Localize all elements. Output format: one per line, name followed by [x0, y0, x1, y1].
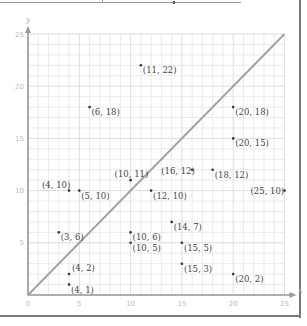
point-marker	[181, 262, 184, 265]
point-marker	[232, 106, 235, 109]
point-label: (16, 12)	[161, 166, 195, 176]
x-tick-label: 15	[177, 300, 186, 308]
y-tick-label: 20	[15, 83, 24, 91]
data-point: (4, 10)	[42, 180, 70, 192]
x-tick-label: 10	[126, 300, 135, 308]
data-point: (20, 2)	[232, 273, 264, 284]
data-point: (10, 5)	[129, 242, 161, 253]
point-marker	[232, 273, 235, 276]
x-tick-label: 0	[26, 300, 30, 308]
point-label: (20, 2)	[235, 274, 263, 284]
point-label: (4, 10)	[42, 180, 70, 190]
point-label: (14, 7)	[174, 222, 202, 232]
data-point: (20, 18)	[232, 106, 269, 117]
point-label: (18, 12)	[215, 170, 249, 180]
point-label: (25, 10)	[251, 186, 285, 196]
point-marker	[170, 221, 173, 224]
point-label: (15, 3)	[184, 264, 212, 274]
point-label: (3, 6)	[61, 232, 84, 242]
data-point: (20, 15)	[232, 137, 269, 148]
point-label: (5, 10)	[81, 191, 109, 201]
point-marker	[181, 242, 184, 245]
point-marker	[129, 179, 132, 182]
point-label: (6, 18)	[92, 107, 120, 117]
data-point: (14, 7)	[170, 221, 202, 232]
data-point: (12, 10)	[150, 189, 187, 200]
data-point: (10, 11)	[115, 169, 149, 181]
data-points: (11, 22)(6, 18)(20, 18)(20, 15)(10, 11)(…	[42, 64, 286, 295]
point-label: (11, 22)	[143, 65, 177, 75]
point-label: (12, 10)	[153, 191, 187, 201]
point-label: (10, 5)	[133, 243, 161, 253]
point-label: (4, 1)	[71, 285, 94, 295]
point-label: (10, 11)	[115, 169, 149, 179]
data-point: (5, 10)	[78, 189, 110, 200]
point-marker	[129, 242, 132, 245]
data-point: (3, 6)	[57, 231, 83, 242]
point-marker	[88, 106, 91, 109]
data-point: (18, 12)	[211, 168, 248, 179]
data-point: (15, 3)	[181, 262, 213, 273]
data-point: (11, 22)	[140, 64, 177, 75]
data-point: (10, 6)	[129, 231, 161, 242]
y-tick-label: 5	[20, 239, 24, 247]
data-point: (16, 12)	[161, 166, 195, 176]
point-marker	[78, 189, 81, 192]
point-marker	[232, 137, 235, 140]
data-point: (4, 2)	[68, 263, 95, 275]
point-marker	[68, 273, 71, 276]
point-marker	[129, 231, 132, 234]
point-marker	[68, 283, 71, 286]
y-axis-arrow-icon	[25, 26, 31, 33]
y-tick-label: 15	[15, 135, 24, 143]
point-label: (15, 5)	[184, 243, 212, 253]
point-marker	[211, 168, 214, 171]
point-label: (20, 15)	[235, 138, 269, 148]
point-marker	[57, 231, 60, 234]
data-point: (6, 18)	[88, 106, 120, 117]
point-label: (4, 2)	[72, 263, 95, 273]
point-marker	[150, 189, 153, 192]
data-point: (4, 1)	[68, 283, 94, 294]
y-tick-label: 10	[15, 187, 24, 195]
point-marker	[68, 189, 71, 192]
data-point: (25, 10)	[251, 186, 286, 196]
x-tick-label: 5	[77, 300, 81, 308]
point-label: (20, 18)	[235, 107, 269, 117]
scatter-plot: xy 0510152025510152025 (11, 22)(6, 18)(2…	[0, 0, 307, 326]
x-axis-arrow-icon	[290, 292, 297, 298]
x-tick-label: 20	[229, 300, 238, 308]
point-marker	[140, 64, 143, 67]
x-tick-label: 25	[280, 300, 289, 308]
x-axis-name: x	[299, 286, 304, 295]
y-axis-name: y	[25, 15, 31, 24]
data-point: (15, 5)	[181, 242, 213, 253]
y-tick-label: 25	[15, 31, 24, 39]
point-label: (10, 6)	[133, 232, 161, 242]
